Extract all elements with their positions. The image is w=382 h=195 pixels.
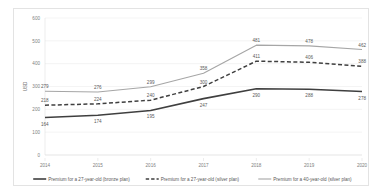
x-axis-tick-label: 2018: [251, 163, 262, 168]
y-axis-tick-label: 200: [32, 107, 40, 112]
data-point-label: 164: [41, 122, 49, 127]
gridlines-group: 0100200300400500600: [32, 16, 362, 158]
y-axis-tick-label: 300: [32, 84, 40, 89]
y-axis-tick-label: 0: [37, 153, 40, 158]
legend-item-2[interactable]: Premium for a 27-year-old (silver plan): [146, 177, 240, 182]
data-point-label: 481: [252, 38, 260, 43]
data-point-label: 299: [147, 80, 155, 85]
y-axis-tick-label: 100: [32, 130, 40, 135]
x-axis-tick-label: 2019: [304, 163, 315, 168]
y-axis-tick-label: 500: [32, 39, 40, 44]
x-axis-labels-group: 2014201520162017201820192020: [40, 158, 368, 168]
legend-label-3: Premium for a 40-year-old (silver plan): [273, 177, 352, 182]
x-axis-tick-label: 2015: [93, 163, 104, 168]
x-axis-tick-label: 2016: [146, 163, 157, 168]
data-point-label: 224: [94, 97, 102, 102]
x-axis-tick-label: 2014: [40, 163, 51, 168]
data-point-label: 462: [358, 43, 366, 48]
data-point-label: 411: [253, 54, 261, 59]
legend: Premium for a 27-year-old (bronze plan)P…: [33, 177, 352, 182]
data-point-label: 218: [41, 98, 49, 103]
data-point-label: 279: [41, 84, 49, 89]
y-axis-tick-label: 600: [32, 16, 40, 21]
legend-item-1[interactable]: Premium for a 27-year-old (bronze plan): [33, 177, 130, 182]
y-axis-tick-label: 400: [32, 61, 40, 66]
legend-item-3[interactable]: Premium for a 40-year-old (silver plan): [258, 177, 352, 182]
data-point-label: 288: [305, 93, 313, 98]
data-point-label: 478: [305, 39, 313, 44]
data-point-label: 174: [94, 119, 102, 124]
data-point-label: 195: [147, 114, 155, 119]
data-point-label: 247: [200, 103, 208, 108]
x-axis-tick-label: 2017: [198, 163, 209, 168]
data-point-label: 388: [358, 59, 366, 64]
legend-label-2: Premium for a 27-year-old (silver plan): [161, 177, 240, 182]
line-chart: 0100200300400500600USD201420152016201720…: [14, 9, 370, 187]
data-point-label: 240: [147, 93, 155, 98]
data-point-label: 290: [252, 93, 260, 98]
data-point-label: 278: [358, 96, 366, 101]
chart-card: 0100200300400500600USD201420152016201720…: [13, 8, 369, 186]
chart-canvas: 0100200300400500600USD201420152016201720…: [14, 9, 370, 187]
y-axis-title: USD: [23, 81, 28, 91]
data-point-label: 276: [94, 85, 102, 90]
x-axis-tick-label: 2020: [357, 163, 368, 168]
data-point-label: 406: [305, 55, 313, 60]
series-labels-2: 218224240300411406388: [41, 54, 366, 103]
legend-label-1: Premium for a 27-year-old (bronze plan): [48, 177, 130, 182]
data-point-label: 358: [200, 66, 208, 71]
data-point-label: 300: [200, 80, 208, 85]
